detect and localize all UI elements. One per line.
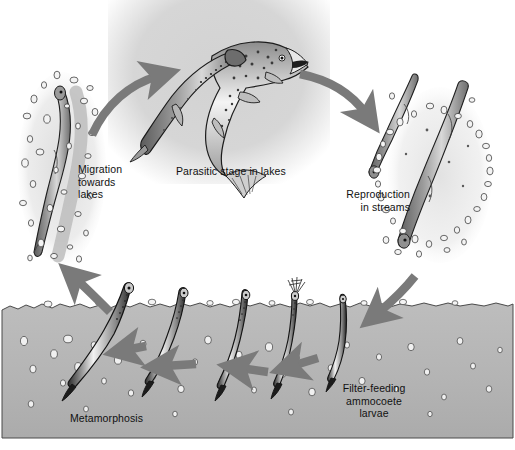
lamprey-life-cycle-figure: Migration towards lakes Parasitic stage … [0,0,515,450]
label-metamorphosis: Metamorphosis [70,412,143,425]
oral-cirri [288,277,305,292]
label-reproduction-in-streams: Reproduction in streams [306,188,410,213]
label-parasitic-stage-in-lakes: Parasitic stage in lakes [176,165,286,178]
arrow-larvae-chain-4 [126,346,146,350]
label-migration-towards-lakes: Migration towards lakes [78,163,122,201]
reproduction-stage-illustration [369,74,493,263]
arrow-larvae-chain-3 [164,364,196,366]
label-filter-feeding-ammocoete-larvae: Filter-feeding ammocoete larvae [318,382,430,420]
figure-artwork [0,0,515,450]
arrow-larvae-chain-2 [240,368,268,372]
